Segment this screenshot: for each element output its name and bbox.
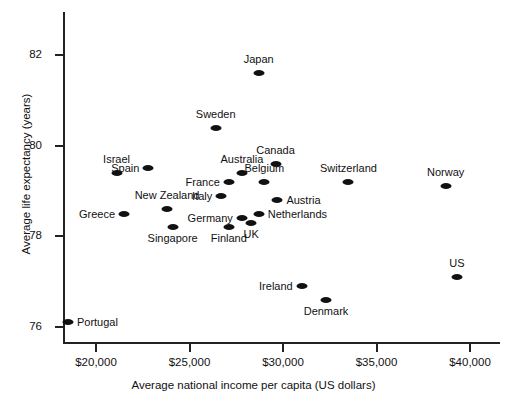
point-label-singapore: Singapore [148,233,198,244]
x-axis-title: Average national income per capita (US d… [0,379,507,391]
point-label-finland: Finland [211,233,247,244]
y-axis-title: Average life expectancy (years) [20,44,32,304]
data-point-greece[interactable] [119,211,130,217]
data-point-italy[interactable] [216,193,227,199]
y-tick-78 [55,235,64,237]
x-tick-label-20000: $20,000 [61,357,131,369]
data-point-new-zealand[interactable] [162,206,173,212]
x-tick-25000 [189,344,191,352]
x-tick-35000 [376,344,378,352]
point-label-denmark: Denmark [304,306,349,317]
data-point-norway[interactable] [440,183,451,189]
data-point-singapore[interactable] [167,224,178,230]
data-point-switzerland[interactable] [343,179,354,185]
data-point-portugal[interactable] [62,319,73,325]
y-tick-82 [55,54,64,56]
x-tick-40000 [469,344,471,352]
x-tick-label-30000: $30,000 [248,357,318,369]
x-tick-30000 [282,344,284,352]
data-point-netherlands[interactable] [253,211,264,217]
y-tick-76 [55,326,64,328]
point-label-germany: Germany [188,213,233,224]
point-label-japan: Japan [244,54,274,65]
data-point-denmark[interactable] [321,297,332,303]
x-tick-label-35000: $35,000 [342,357,412,369]
y-tick-80 [55,145,64,147]
data-point-sweden[interactable] [210,125,221,131]
data-point-finland[interactable] [223,224,234,230]
data-point-us[interactable] [451,274,462,280]
x-tick-20000 [95,344,97,352]
data-point-belgium[interactable] [259,179,270,185]
x-tick-label-40000: $40,000 [435,357,505,369]
y-tick-label-76: 76 [14,321,42,333]
y-axis-line [63,12,65,344]
point-label-sweden: Sweden [196,109,236,120]
point-label-portugal: Portugal [77,317,118,328]
point-label-ireland: Ireland [259,281,293,292]
data-point-israel[interactable] [111,170,122,176]
data-point-uk[interactable] [246,220,257,226]
data-point-japan[interactable] [253,70,264,76]
point-label-norway: Norway [427,167,464,178]
data-point-france[interactable] [223,179,234,185]
point-label-new-zealand: New Zealand [135,190,200,201]
data-point-austria[interactable] [272,197,283,203]
point-label-belgium: Belgium [244,163,284,174]
point-label-switzerland: Switzerland [320,163,377,174]
x-tick-label-25000: $25,000 [155,357,225,369]
point-label-israel: Israel [103,154,130,165]
point-label-netherlands: Netherlands [268,208,327,219]
scatter-plot: 76788082$20,000$25,000$30,000$35,000$40,… [0,0,507,404]
point-label-austria: Austria [286,195,320,206]
point-label-greece: Greece [79,208,115,219]
data-point-spain[interactable] [143,165,154,171]
data-point-ireland[interactable] [296,283,307,289]
point-label-us: US [449,258,464,269]
point-label-france: France [186,176,220,187]
